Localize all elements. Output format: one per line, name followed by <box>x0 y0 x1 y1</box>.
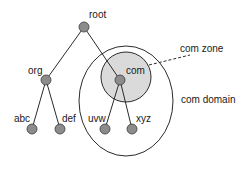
node-label-def: def <box>62 113 76 124</box>
com-zone-region <box>101 52 151 102</box>
dns-tree-diagram: rootorgcomabcdefuvwxyz com zone com doma… <box>0 0 244 169</box>
node-label-uvw: uvw <box>88 113 107 124</box>
node-com <box>115 75 125 85</box>
com-zone-callout-line <box>149 55 190 65</box>
node-def <box>55 124 65 134</box>
edge-org-def <box>46 80 60 129</box>
node-root <box>79 22 89 32</box>
edge-org-abc <box>32 80 46 129</box>
com-zone-label: com zone <box>180 43 224 54</box>
node-label-abc: abc <box>14 113 30 124</box>
com-domain-label: com domain <box>181 94 235 105</box>
edge-root-org <box>46 27 84 80</box>
node-label-org: org <box>28 65 42 76</box>
node-org <box>41 75 51 85</box>
node-label-xyz: xyz <box>136 113 151 124</box>
node-xyz <box>127 124 137 134</box>
node-abc <box>27 124 37 134</box>
node-label-root: root <box>89 9 106 20</box>
node-label-com: com <box>126 65 145 76</box>
node-uvw <box>100 124 110 134</box>
tree-nodes <box>27 22 137 134</box>
